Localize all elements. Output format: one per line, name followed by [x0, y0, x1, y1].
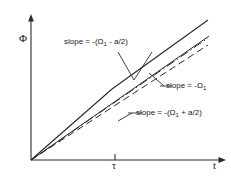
slope-annotation-middle-prefix: slope = - [166, 81, 197, 90]
slope-annotation-top-prefix: slope = -( [64, 37, 98, 46]
slope-annotation-middle-subscript: 1 [203, 85, 206, 91]
x-axis-arrow-head [219, 157, 227, 163]
slope-annotation-middle-symbol: Ω [197, 81, 203, 90]
x-axis-label: t [213, 160, 216, 171]
slope-annotation-bottom-prefix: slope = -( [136, 108, 170, 117]
slope-annotation-top: slope = -(Ω1 - a/2) [64, 38, 128, 46]
slope-annotation-bottom-symbol: Ω [170, 108, 176, 117]
x-axis-tick-label-tau: τ [112, 161, 116, 171]
figure-canvas: slope = -(Ω1 - a/2) slope = -Ω1 slope = … [0, 0, 231, 184]
y-axis-arrow-head [28, 14, 34, 22]
slope-annotation-top-suffix: - a/2) [107, 37, 128, 46]
slope-annotation-middle: slope = -Ω1 [166, 82, 206, 90]
lower-dashed-line [31, 45, 208, 160]
leader-line-top-a [118, 52, 134, 80]
leader-line-top-b [134, 52, 152, 80]
leader-line-bottom [118, 113, 132, 121]
slope-annotation-bottom-suffix: + a/2) [179, 108, 202, 117]
plot-svg [0, 0, 231, 184]
slope-annotation-bottom: slope = -(Ω1 + a/2) [136, 109, 202, 117]
y-axis-label: Φ [19, 33, 27, 44]
slope-annotation-bottom-subscript: 1 [176, 112, 179, 118]
slope-annotation-top-symbol: Ω [98, 37, 104, 46]
slope-annotation-top-subscript: 1 [104, 41, 107, 47]
